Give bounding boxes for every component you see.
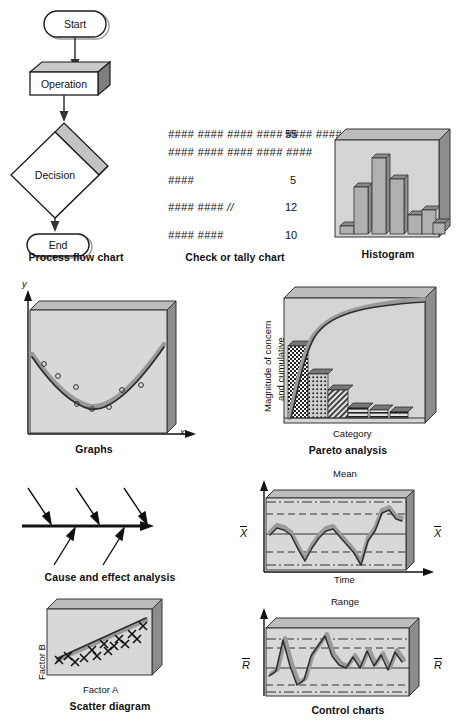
caption-check-or-tally-chart: Check or tally chart xyxy=(160,251,310,263)
tally-row-4-marks: #### #### xyxy=(168,229,224,241)
process-flow-chart-graphic: Start Operation Decision xyxy=(0,0,160,248)
tally-row-3-count: 12 xyxy=(285,201,297,213)
tally-row-4-count: 10 xyxy=(285,229,297,241)
panel-check-or-tally-chart: #### #### #### #### #### #### 55 #### ##… xyxy=(160,126,310,261)
tally-row-3-marks: #### #### // xyxy=(168,201,234,213)
flow-node-start-label: Start xyxy=(64,18,86,30)
range-chart-right-symbol: R xyxy=(434,658,442,671)
caption-cause-and-effect-analysis: Cause and effect analysis xyxy=(0,571,220,583)
flow-node-decision: Decision xyxy=(11,123,108,218)
mean-chart-right-symbol: X xyxy=(434,526,441,539)
panel-scatter-diagram: Factor B Factor A Scatter diagram xyxy=(0,596,228,728)
range-chart-title: Range xyxy=(331,596,359,607)
scatter-x-axis-label: Factor A xyxy=(83,684,118,695)
flow-arrow-2 xyxy=(60,95,69,122)
panel-process-flow-chart: Start Operation Decision xyxy=(0,0,160,260)
pareto-y-axis-label-line1: Magnitude of concern xyxy=(262,321,273,412)
tally-row-2-count: 5 xyxy=(290,174,296,186)
flow-node-operation: Operation xyxy=(30,62,110,95)
mean-control-chart-graphic xyxy=(242,480,452,580)
flow-node-operation-label: Operation xyxy=(41,78,87,90)
caption-scatter-diagram: Scatter diagram xyxy=(22,700,198,712)
flow-node-decision-label: Decision xyxy=(35,169,75,181)
flow-arrow-3 xyxy=(51,218,60,232)
histogram-graphic xyxy=(332,126,456,238)
mean-chart-title: Mean xyxy=(333,468,357,479)
cause-and-effect-graphic xyxy=(10,466,220,570)
range-chart-left-symbol: R xyxy=(242,658,250,671)
flow-node-end-label: End xyxy=(49,239,68,251)
scatter-graphic xyxy=(44,597,174,685)
panel-control-charts: Mean X X Time Range xyxy=(228,466,456,728)
pareto-graphic xyxy=(280,284,450,434)
tally-row-1-marks-line2: #### #### #### #### #### xyxy=(168,146,312,158)
graphs-graphic xyxy=(14,288,204,443)
caption-pareto-analysis: Pareto analysis xyxy=(268,444,428,456)
caption-histogram: Histogram xyxy=(320,248,456,260)
tally-row-1-count: 55 xyxy=(285,128,297,140)
panel-graphs: y x Graphs xyxy=(0,276,228,466)
panel-pareto-analysis: Magnitude of concern and cumulative Cate… xyxy=(228,276,456,466)
tally-row-1-marks-line1: #### #### #### #### #### #### xyxy=(168,128,342,140)
tally-row-2-marks: #### xyxy=(168,174,194,186)
panel-cause-and-effect-analysis: Cause and effect analysis xyxy=(0,466,228,590)
mean-chart-x-axis-label: Time xyxy=(334,574,355,585)
caption-process-flow-chart: Process flow chart xyxy=(0,251,152,263)
caption-graphs: Graphs xyxy=(14,443,174,455)
panel-histogram: Histogram xyxy=(320,126,456,261)
range-control-chart-graphic xyxy=(242,608,452,704)
caption-control-charts: Control charts xyxy=(258,704,438,716)
mean-chart-left-symbol: X xyxy=(240,526,247,539)
flow-node-start: Start xyxy=(44,11,109,39)
